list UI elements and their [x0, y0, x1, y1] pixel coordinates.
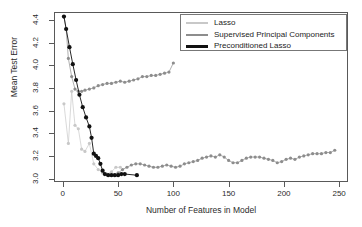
- data-point: [280, 160, 283, 163]
- data-point: [196, 159, 199, 162]
- data-point: [227, 159, 230, 162]
- data-point: [236, 161, 239, 164]
- data-point: [209, 154, 212, 157]
- data-point: [64, 27, 68, 31]
- data-point: [136, 77, 139, 80]
- figure: Mean Test Error 3.03.23.43.63.84.04.24.4…: [0, 0, 362, 227]
- y-axis-tick: [49, 43, 54, 44]
- y-axis-tick-label: 3.0: [31, 167, 40, 189]
- x-axis-tick-label: 200: [269, 189, 299, 198]
- series-line: [64, 17, 173, 92]
- data-point: [73, 124, 76, 127]
- data-point: [320, 152, 323, 155]
- series-preconditioned-lasso: [62, 14, 139, 177]
- data-point: [161, 165, 164, 168]
- data-point: [92, 162, 95, 165]
- data-point: [276, 161, 279, 164]
- x-axis-tick: [229, 182, 230, 187]
- y-axis-tick-label: 4.4: [31, 8, 40, 30]
- data-point: [192, 160, 195, 163]
- data-point: [141, 75, 144, 78]
- data-point: [73, 87, 76, 90]
- data-point: [218, 153, 221, 156]
- data-point: [324, 151, 327, 154]
- legend-swatch-line: [186, 45, 208, 48]
- data-point: [128, 80, 131, 83]
- data-point: [97, 84, 100, 87]
- data-point: [159, 73, 162, 76]
- data-point: [97, 168, 100, 171]
- data-point: [98, 162, 102, 166]
- x-axis-label: Number of Features in Model: [54, 205, 348, 215]
- data-point: [125, 166, 128, 169]
- data-point: [174, 166, 177, 169]
- data-point: [89, 136, 93, 140]
- data-point: [240, 159, 243, 162]
- data-point: [110, 82, 113, 85]
- data-point: [329, 151, 332, 154]
- y-axis-tick: [49, 20, 54, 21]
- data-point: [110, 170, 113, 173]
- legend: Lasso Supervised Principal Components Pr…: [180, 14, 347, 51]
- data-point: [152, 166, 155, 169]
- data-point: [187, 161, 190, 164]
- legend-swatch-line: [186, 22, 208, 24]
- data-point: [154, 74, 157, 77]
- data-point: [119, 80, 122, 83]
- data-point: [249, 155, 252, 158]
- data-point: [302, 154, 305, 157]
- data-point: [92, 86, 95, 89]
- x-axis-tick-label: 150: [214, 189, 244, 198]
- legend-item-preconditioned-lasso: Preconditioned Lasso: [186, 41, 346, 51]
- data-point: [67, 57, 70, 60]
- data-point: [105, 82, 108, 85]
- data-point: [132, 78, 135, 81]
- x-axis-tick-label: 100: [158, 189, 188, 198]
- series-line: [64, 17, 137, 176]
- legend-item-supervised-principal-components: Supervised Principal Components: [186, 30, 346, 40]
- data-point: [293, 158, 296, 161]
- data-point: [70, 75, 73, 78]
- data-point: [178, 165, 181, 168]
- x-axis-tick: [63, 182, 64, 187]
- y-axis-label: Mean Test Error: [9, 7, 19, 127]
- data-point: [315, 152, 318, 155]
- data-point: [205, 155, 208, 158]
- data-point: [254, 155, 257, 158]
- y-axis-tick: [49, 156, 54, 157]
- y-axis-tick-label: 3.2: [31, 144, 40, 166]
- data-point: [70, 90, 73, 93]
- series-line: [118, 150, 335, 173]
- data-point: [67, 45, 71, 49]
- data-point: [201, 157, 204, 160]
- data-point: [77, 93, 81, 97]
- data-point: [74, 78, 78, 82]
- data-point: [145, 75, 148, 78]
- legend-label: Preconditioned Lasso: [214, 41, 291, 51]
- legend-swatch-line: [186, 34, 208, 36]
- data-point: [258, 155, 261, 158]
- data-point: [156, 166, 159, 169]
- data-point: [62, 14, 66, 18]
- data-point: [87, 124, 91, 128]
- data-point: [135, 173, 139, 177]
- data-point: [62, 102, 65, 105]
- y-axis-tick-label: 3.4: [31, 122, 40, 144]
- data-point: [170, 165, 173, 168]
- data-point: [167, 70, 170, 73]
- data-point: [84, 115, 88, 119]
- data-point: [223, 155, 226, 158]
- data-point: [134, 162, 137, 165]
- data-point: [71, 62, 75, 66]
- data-point: [67, 142, 70, 145]
- data-point: [147, 165, 150, 168]
- data-point: [163, 72, 166, 75]
- y-axis-tick: [49, 133, 54, 134]
- data-point: [311, 152, 314, 155]
- data-point: [114, 81, 117, 84]
- series-lasso: [62, 90, 122, 176]
- data-point: [267, 158, 270, 161]
- data-point: [183, 162, 186, 165]
- data-point: [88, 142, 91, 145]
- y-axis-tick: [49, 65, 54, 66]
